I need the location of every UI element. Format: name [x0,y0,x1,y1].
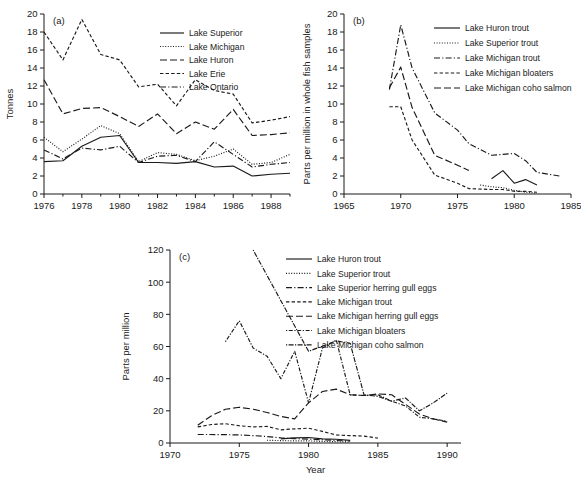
y-tick-label: 14 [27,62,38,73]
y-tick-label: 10 [327,98,338,109]
series-line [492,171,537,185]
legend-label: Lake Huron trout [317,254,382,264]
series-line [198,424,378,438]
x-tick-label: 1970 [390,200,411,211]
y-tick-label: 0 [32,188,37,199]
y-tick-label: 6 [32,134,37,145]
series-line [44,19,290,123]
legend-label: Lake Michigan [189,42,245,52]
y-tick-label: 40 [153,373,164,384]
x-tick-label: 1980 [504,200,525,211]
y-tick-label: 0 [158,437,163,448]
legend: Lake Huron troutLake Superior troutLake … [434,23,572,93]
y-tick-label: 8 [332,116,337,127]
y-tick-label: 16 [327,44,338,55]
legend-label: Lake Michigan bloaters [317,326,405,336]
axis-lines [44,14,290,194]
y-tick-label: 20 [27,8,38,19]
series-line [389,107,537,193]
x-tick-label: 1978 [71,200,92,211]
legend-label: Lake Erie [189,69,226,79]
legend: Lake SuperiorLake MichiganLake HuronLake… [160,28,245,92]
series-line [198,389,447,425]
y-tick-label: 2 [32,170,37,181]
x-tick-label: 1970 [159,449,180,460]
y-tick-label: 20 [327,8,338,19]
panel-b: 0246810121416182019651970197519801985Par… [298,0,581,232]
y-tick-label: 18 [327,26,338,37]
legend-label: Lake Superior trout [465,38,539,48]
legend-label: Lake Michigan herring gull eggs [317,311,438,321]
y-axis-title: Tonnes [4,88,15,119]
x-tick-label: 1975 [229,449,250,460]
legend-label: Lake Michigan coho salmon [465,83,572,93]
series-line [389,67,468,171]
series-line [44,80,290,136]
y-tick-label: 12 [27,80,38,91]
legend-label: Lake Michigan trout [317,297,393,307]
legend: Lake Huron troutLake Superior troutLake … [286,254,438,350]
y-tick-label: 18 [27,26,38,37]
legend-label: Lake Ontario [189,82,238,92]
x-axis-title: Year [306,464,325,475]
panel-letter: (c) [179,251,190,262]
y-tick-label: 12 [327,80,338,91]
y-tick-label: 120 [148,244,164,255]
y-tick-label: 0 [332,188,337,199]
x-tick-label: 1990 [437,449,458,460]
series-line [44,136,290,177]
chart-a: 0246810121416182019761978198019821984198… [0,0,298,232]
x-tick-label: 1988 [261,200,282,211]
y-tick-label: 4 [32,152,37,163]
x-tick-label: 1965 [333,200,354,211]
x-tick-label: 1982 [147,200,168,211]
x-tick-label: 1980 [109,200,130,211]
x-tick-label: 1980 [298,449,319,460]
x-tick-label: 1985 [367,449,388,460]
y-tick-label: 8 [32,116,37,127]
legend-label: Lake Huron [189,55,234,65]
legend-label: Lake Superior herring gull eggs [317,283,436,293]
series-line [198,434,350,441]
y-tick-label: 14 [327,62,338,73]
panel-a: 0246810121416182019761978198019821984198… [0,0,298,232]
x-tick-label: 1986 [223,200,244,211]
y-tick-label: 16 [27,44,38,55]
legend-label: Lake Superior trout [317,269,391,279]
y-tick-label: 80 [153,309,164,320]
x-tick-label: 1976 [33,200,54,211]
y-tick-label: 10 [27,98,38,109]
y-axis-title: Parts per million in whole fish samples [301,23,312,184]
chart-c: 02040608010012019701975198019851990Parts… [108,232,523,491]
x-tick-label: 1985 [560,200,581,211]
y-tick-label: 4 [332,152,337,163]
y-tick-label: 6 [332,134,337,145]
legend-label: Lake Huron trout [465,23,530,33]
y-tick-label: 60 [153,341,164,352]
x-tick-label: 1984 [185,200,206,211]
chart-b: 0246810121416182019651970197519801985Par… [298,0,581,232]
y-axis-title: Parts per million [120,312,131,380]
series-line [480,185,537,193]
x-tick-label: 1975 [447,200,468,211]
legend-label: Lake Michigan bloaters [465,68,553,78]
panel-letter: (b) [353,15,365,26]
legend-label: Lake Michigan coho salmon [317,340,424,350]
panel-c: 02040608010012019701975198019851990Parts… [108,232,523,491]
series-line [44,126,290,165]
panel-letter: (a) [53,15,65,26]
y-tick-label: 100 [148,277,164,288]
legend-label: Lake Michigan trout [465,53,541,63]
legend-label: Lake Superior [189,28,243,38]
y-tick-label: 2 [332,170,337,181]
y-tick-label: 20 [153,405,164,416]
